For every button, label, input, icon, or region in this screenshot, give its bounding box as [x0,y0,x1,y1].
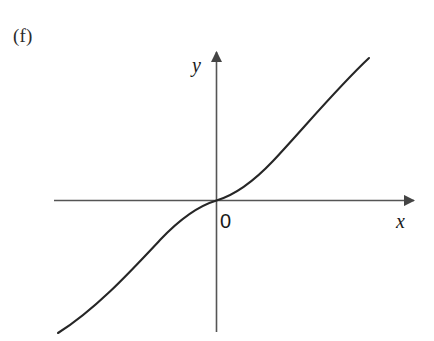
figure-page: (f) y x 0 [0,0,434,341]
cubic-curve [58,58,369,333]
x-axis-label: x [395,210,405,232]
y-axis-label: y [190,54,201,77]
origin-label: 0 [220,210,231,232]
graph-canvas: y x 0 [0,0,434,341]
